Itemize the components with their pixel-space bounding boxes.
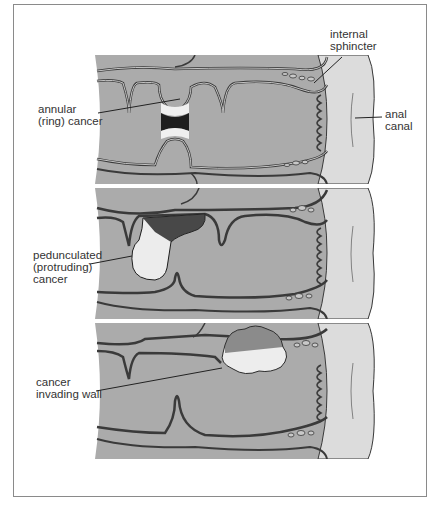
label-pedunculated-cancer: pedunculated (protruding) cancer [33,249,102,285]
rectum-illustration-pedunculated [95,188,378,319]
label-internal-sphincter: internal sphincter [330,28,377,52]
panel-invading-cancer [95,323,378,459]
label-anal-canal: anal canal [385,108,413,132]
panel-annular-cancer [95,55,378,184]
label-annular-cancer: annular (ring) cancer [38,103,103,127]
panel-pedunculated-cancer [95,188,378,319]
label-cancer-invading-wall: cancer invading wall [36,376,102,400]
rectum-illustration-invading [95,323,378,459]
rectum-illustration-annular [95,55,378,184]
